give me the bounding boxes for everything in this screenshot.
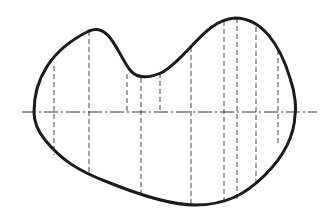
section-lines: [54, 18, 278, 204]
technical-diagram: [0, 0, 328, 222]
